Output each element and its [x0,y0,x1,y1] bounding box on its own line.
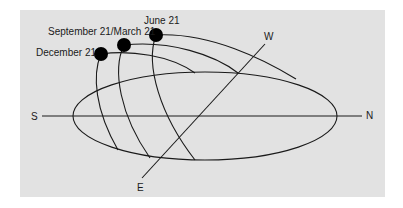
sun-path-december [96,53,195,150]
label-east: E [137,183,144,193]
label-west: W [264,32,273,42]
label-north: N [366,111,373,121]
label-december: December 21 [36,48,96,58]
label-south: S [31,112,38,122]
label-equinox: September 21/March 21 [48,27,155,37]
label-june: June 21 [144,16,180,26]
sun-path-equinox [119,44,238,158]
sun-dot-december [94,47,108,61]
sun-path-june [152,35,296,160]
sun-dot-equinox [117,38,131,52]
